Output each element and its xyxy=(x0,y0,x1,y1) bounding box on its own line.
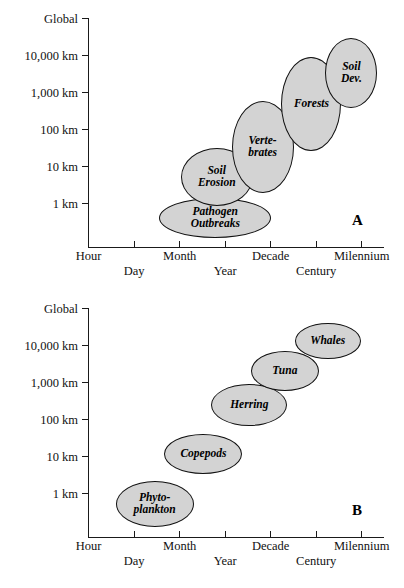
bubble-phytoplankton: Phyto- plankton xyxy=(116,481,194,527)
y-axis-tick-label: 1,000 km xyxy=(31,86,78,99)
x-axis-tick: Year xyxy=(225,241,226,248)
y-axis-tick-label: 10,000 km xyxy=(25,49,78,62)
y-axis-tick: 1,000 km xyxy=(82,92,88,93)
plot-area-a: Global10,000 km1,000 km100 km10 km1 kmHo… xyxy=(88,18,384,248)
y-axis-tick: 1,000 km xyxy=(82,382,88,383)
panel-letter-b: B xyxy=(352,502,362,519)
x-axis-tick: Century xyxy=(316,241,317,248)
y-axis-tick: 1 km xyxy=(82,493,88,494)
bubble-tuna: Tuna xyxy=(251,351,319,391)
x-axis-tick: Milennium xyxy=(361,241,362,248)
y-axis-tick-label: Global xyxy=(44,12,78,25)
x-axis-tick: Decade xyxy=(270,531,271,538)
x-axis-tick-label: Century xyxy=(296,265,336,278)
x-axis-tick: Year xyxy=(225,531,226,538)
x-axis-tick-label: Hour xyxy=(76,540,102,553)
x-axis-tick-label: Day xyxy=(124,555,145,568)
x-axis-tick: Milennium xyxy=(361,531,362,538)
x-axis-tick: Month xyxy=(179,241,180,248)
x-axis-tick-label: Month xyxy=(163,540,196,553)
y-axis-tick-label: 1,000 km xyxy=(31,376,78,389)
x-axis-tick: Century xyxy=(316,531,317,538)
y-axis-tick: Global xyxy=(82,308,88,309)
x-axis-tick: Hour xyxy=(88,241,89,248)
x-axis-line xyxy=(88,247,384,248)
y-axis-tick: 100 km xyxy=(82,419,88,420)
y-axis-tick: Global xyxy=(82,18,88,19)
y-axis-line xyxy=(88,308,89,538)
x-axis-tick-label: Year xyxy=(214,555,237,568)
panel-a: Global10,000 km1,000 km100 km10 km1 kmHo… xyxy=(0,0,404,290)
x-axis-tick-label: Century xyxy=(296,555,336,568)
bubble-soil-development: Soil Dev. xyxy=(325,38,377,108)
y-axis-tick-label: 100 km xyxy=(40,123,78,136)
y-axis-tick-label: 1 km xyxy=(53,197,78,210)
x-axis-tick: Day xyxy=(134,241,135,248)
x-axis-tick-label: Year xyxy=(214,265,237,278)
x-axis-tick-label: Decade xyxy=(252,540,289,553)
y-axis-tick: 10 km xyxy=(82,166,88,167)
x-axis-tick-label: Milennium xyxy=(334,250,390,263)
y-axis-tick: 1 km xyxy=(82,203,88,204)
y-axis-tick-label: 10 km xyxy=(46,160,78,173)
panel-letter-a: A xyxy=(352,212,363,229)
x-axis-tick-label: Hour xyxy=(76,250,102,263)
plot-area-b: Global10,000 km1,000 km100 km10 km1 kmHo… xyxy=(88,308,384,538)
y-axis-tick: 10,000 km xyxy=(82,55,88,56)
x-axis-tick: Month xyxy=(179,531,180,538)
y-axis-line xyxy=(88,18,89,248)
bubble-copepods: Copepods xyxy=(164,434,242,474)
y-axis-tick-label: 10,000 km xyxy=(25,339,78,352)
panel-b: Global10,000 km1,000 km100 km10 km1 kmHo… xyxy=(0,290,404,588)
x-axis-line xyxy=(88,537,384,538)
x-axis-tick-label: Milennium xyxy=(334,540,390,553)
x-axis-tick: Decade xyxy=(270,241,271,248)
x-axis-tick: Hour xyxy=(88,531,89,538)
y-axis-tick-label: 1 km xyxy=(53,487,78,500)
x-axis-tick-label: Day xyxy=(124,265,145,278)
y-axis-tick: 10 km xyxy=(82,456,88,457)
x-axis-tick-label: Decade xyxy=(252,250,289,263)
y-axis-tick-label: Global xyxy=(44,302,78,315)
x-axis-tick: Day xyxy=(134,531,135,538)
y-axis-tick-label: 10 km xyxy=(46,450,78,463)
y-axis-tick: 100 km xyxy=(82,129,88,130)
y-axis-tick-label: 100 km xyxy=(40,413,78,426)
bubble-whales: Whales xyxy=(295,323,361,359)
x-axis-tick-label: Month xyxy=(163,250,196,263)
y-axis-tick: 10,000 km xyxy=(82,345,88,346)
